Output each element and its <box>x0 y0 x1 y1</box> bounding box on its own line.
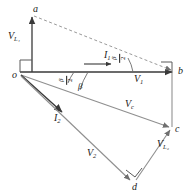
angle-label-beta-half-b-den: 2 <box>121 54 128 63</box>
vector-label-V1-sub: 1 <box>140 78 143 85</box>
angle-label-beta-half-at-b: β 2 <box>111 54 128 63</box>
vector-label-V1: V1 <box>134 74 143 85</box>
vector-label-VL1-sub: L₁ <box>14 35 20 42</box>
vector-line-V2 <box>21 76 130 180</box>
angle-label-beta-half-origin: β 2 <box>58 76 75 85</box>
angle-label-beta-origin: β <box>78 82 82 91</box>
vector-label-I2: I2 <box>54 113 61 124</box>
vector-label-VL1: VL₁ <box>8 31 20 42</box>
dashed-line-a-b <box>34 16 171 70</box>
angle-label-beta-half-origin-num: β <box>58 76 65 85</box>
right-angle-marker-o <box>20 60 32 72</box>
vertex-label-o: o <box>12 70 17 80</box>
vertex-label-d: d <box>132 182 137 192</box>
figure-canvas: a o b c d VL₁ I1 I2 V1 Vc V2 VL₂ β 2 β β… <box>0 0 192 195</box>
vector-label-V2-sub: 2 <box>93 152 96 159</box>
vector-label-I2-sub: 2 <box>57 117 60 124</box>
vector-label-V2: V2 <box>87 148 96 159</box>
angle-label-beta-half-origin-den: 2 <box>68 76 75 85</box>
angle-label-beta-half-b-num: β <box>111 54 118 63</box>
vector-line-VL2 <box>136 130 170 180</box>
vector-label-VL2: VL₂ <box>157 139 169 150</box>
vector-label-VL2-sub: L₂ <box>163 143 169 150</box>
vector-label-Vc-sub: c <box>131 103 134 110</box>
vector-line-Vc <box>21 75 169 127</box>
angle-arc-beta-half-at-b <box>128 58 133 72</box>
vertex-label-c: c <box>175 124 179 134</box>
vector-diagram-svg <box>0 0 192 195</box>
vector-label-Vc: Vc <box>125 99 134 110</box>
vector-line-I2 <box>21 75 62 112</box>
vertex-label-b: b <box>178 66 183 76</box>
vertex-label-a: a <box>33 4 38 14</box>
